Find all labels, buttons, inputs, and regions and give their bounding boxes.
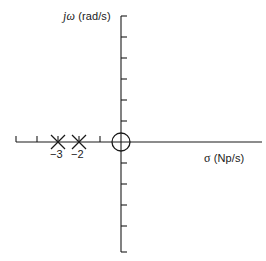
plot-canvas xyxy=(0,0,266,261)
s-plane-pole-zero-plot: jω (rad/s) σ (Np/s) −3 −2 xyxy=(0,0,266,261)
sigma-axis-symbol: σ xyxy=(204,151,211,165)
tick-label-minus-three: −3 xyxy=(50,148,63,160)
jomega-axis-units: (rad/s) xyxy=(78,10,110,22)
sigma-axis-ticks xyxy=(37,136,100,142)
tick-label-minus-two: −2 xyxy=(71,148,84,160)
jomega-axis-symbol: jω xyxy=(63,9,75,23)
sigma-axis-label: σ (Np/s) xyxy=(204,151,244,166)
jomega-axis-ticks xyxy=(121,37,127,226)
jomega-axis-label: jω (rad/s) xyxy=(63,9,111,24)
sigma-axis-units: (Np/s) xyxy=(214,152,245,164)
